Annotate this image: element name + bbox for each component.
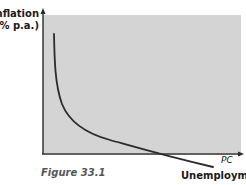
phillips-curve-chart: Inflation (% p.a.) PC Unemployment Figur…	[0, 0, 246, 185]
y-axis-arrow-icon	[41, 8, 46, 14]
series-label-pc: PC	[221, 155, 233, 165]
x-axis-label: Unemployment	[181, 170, 246, 181]
figure-caption: Figure 33.1	[41, 167, 105, 178]
y-axis-label: Inflation (% p.a.)	[0, 8, 39, 32]
y-axis-label-line1: Inflation	[0, 8, 39, 20]
y-axis-label-line2: (% p.a.)	[0, 20, 39, 32]
plot-background	[43, 15, 241, 153]
